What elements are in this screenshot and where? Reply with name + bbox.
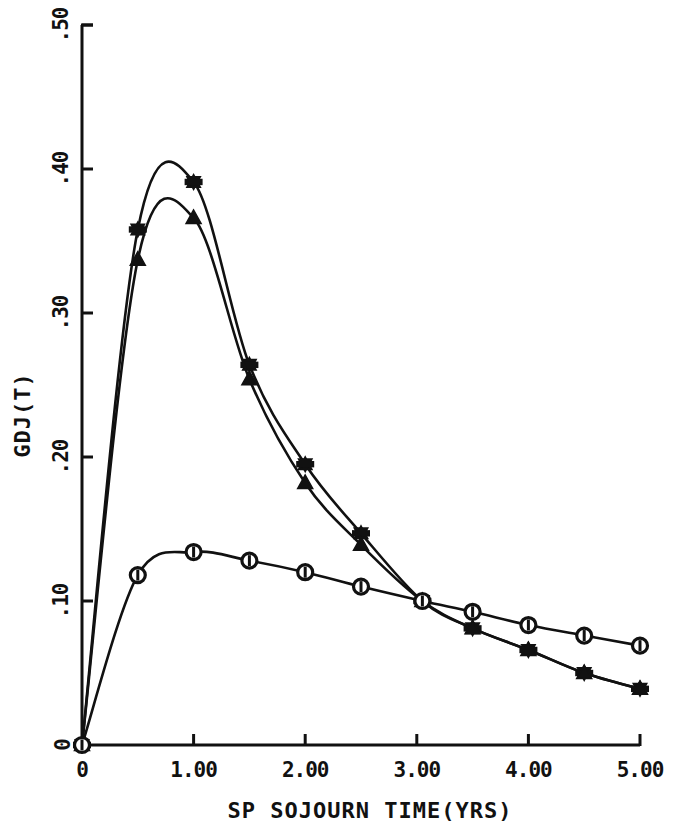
circle-dot-marker xyxy=(577,628,592,643)
x-tick-label: 2.00 xyxy=(282,758,329,782)
y-tick-label: .20 xyxy=(49,439,73,474)
y-axis-title: GDJ(T) xyxy=(10,372,35,457)
x-tick-label: 1.00 xyxy=(170,758,217,782)
circle-dot-marker xyxy=(354,579,369,594)
circle-dot-marker xyxy=(298,565,313,580)
circle-dot-marker xyxy=(465,604,480,619)
circle-dot-marker xyxy=(521,618,536,633)
chart-figure: 0.10.20.30.40.50 01.002.003.004.005.00 G… xyxy=(0,0,684,830)
x-axis-title: SP SOJOURN TIME(YRS) xyxy=(228,798,513,823)
circle-dot-marker xyxy=(75,738,90,753)
circle-dot-marker xyxy=(415,594,430,609)
circle-dot-marker xyxy=(633,638,648,653)
plot-background xyxy=(0,0,684,830)
x-tick-label: 5.00 xyxy=(617,758,664,782)
y-tick-label: .10 xyxy=(49,583,73,618)
y-tick-label: 0 xyxy=(51,739,75,751)
circle-dot-marker xyxy=(242,553,257,568)
x-tick-label: 0 xyxy=(76,758,88,782)
y-tick-label: .40 xyxy=(49,151,73,186)
y-tick-label: .50 xyxy=(49,7,73,42)
circle-dot-marker xyxy=(130,568,145,583)
x-tick-label: 4.00 xyxy=(505,758,552,782)
y-tick-label: .30 xyxy=(49,295,73,330)
x-tick-label: 3.00 xyxy=(394,758,441,782)
line-chart-plot: 0.10.20.30.40.50 01.002.003.004.005.00 G… xyxy=(0,0,684,830)
circle-dot-marker xyxy=(186,545,201,560)
